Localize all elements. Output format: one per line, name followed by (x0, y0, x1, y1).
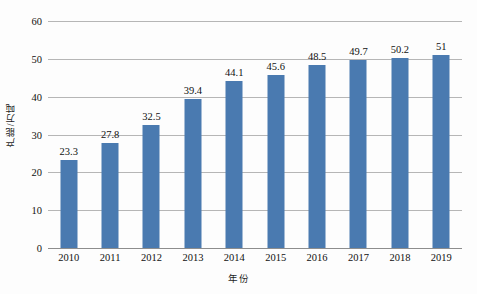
bar-chart: 产能/万吨 0102030405060 23.327.832.539.444.1… (0, 0, 477, 294)
bar-value-label: 51 (436, 41, 447, 52)
y-axis-title-label: 产能/万吨 (4, 102, 18, 147)
bar-group[interactable]: 39.4 (172, 21, 213, 248)
bar-value-label: 50.2 (391, 44, 409, 55)
x-tick-label: 2017 (338, 252, 379, 263)
bar-group[interactable]: 23.3 (48, 21, 89, 248)
x-tick-label: 2016 (296, 252, 337, 263)
bar-value-label: 39.4 (184, 85, 202, 96)
bar-group[interactable]: 27.8 (89, 21, 130, 248)
bar[interactable] (143, 125, 160, 248)
x-axis-title-label: 年份 (228, 274, 249, 284)
bar[interactable] (102, 143, 119, 248)
bar-group[interactable]: 49.7 (338, 21, 379, 248)
bar[interactable] (267, 75, 284, 248)
y-tick-label: 60 (14, 16, 42, 27)
y-tick-label: 10 (14, 205, 42, 216)
y-tick-label: 40 (14, 91, 42, 102)
x-tick-label: 2018 (379, 252, 420, 263)
x-tick-label: 2015 (255, 252, 296, 263)
bar[interactable] (350, 60, 367, 248)
bar[interactable] (184, 99, 201, 248)
x-tick-label: 2011 (89, 252, 130, 263)
bar[interactable] (433, 55, 450, 248)
bar[interactable] (309, 65, 326, 248)
x-axis-tick-labels: 2010201120122013201420152016201720182019 (48, 252, 462, 268)
bar-group[interactable]: 45.6 (255, 21, 296, 248)
y-tick-label: 20 (14, 167, 42, 178)
y-tick-label: 30 (14, 129, 42, 140)
bar-group[interactable]: 51 (421, 21, 462, 248)
y-tick-label: 50 (14, 53, 42, 64)
plot-area: 23.327.832.539.444.145.648.549.750.251 (48, 21, 462, 248)
x-tick-label: 2019 (421, 252, 462, 263)
bar-group[interactable]: 44.1 (214, 21, 255, 248)
bar[interactable] (226, 81, 243, 248)
bar-value-label: 48.5 (308, 51, 326, 62)
bar-value-label: 27.8 (101, 129, 119, 140)
bar[interactable] (391, 58, 408, 248)
bar-group[interactable]: 50.2 (379, 21, 420, 248)
bar-value-label: 49.7 (349, 46, 367, 57)
x-tick-label: 2012 (131, 252, 172, 263)
y-tick-label: 0 (14, 243, 42, 254)
x-tick-label: 2010 (48, 252, 89, 263)
bar-value-label: 32.5 (142, 111, 160, 122)
bar[interactable] (60, 160, 77, 248)
y-axis-title: 产能/万吨 (0, 0, 22, 250)
bar-value-label: 44.1 (225, 67, 243, 78)
x-axis-title: 年份 (0, 271, 477, 285)
bar-group[interactable]: 32.5 (131, 21, 172, 248)
gridline (48, 248, 462, 249)
bar-value-label: 45.6 (267, 61, 285, 72)
bar-value-label: 23.3 (60, 146, 78, 157)
x-tick-label: 2014 (214, 252, 255, 263)
bar-group[interactable]: 48.5 (296, 21, 337, 248)
x-tick-label: 2013 (172, 252, 213, 263)
